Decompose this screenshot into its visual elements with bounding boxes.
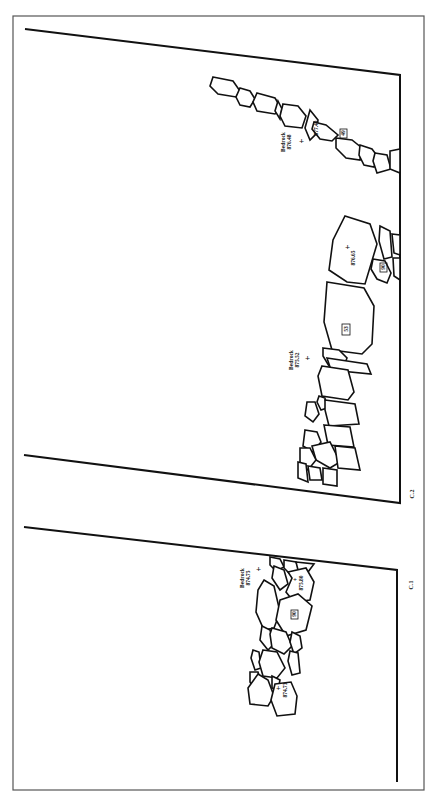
panel-c1: 90 + 875.80 + 874.73 Bedrock 874.75 + C.… [24,527,414,782]
stone-elevation-label: 875.80 [298,575,304,590]
bedrock-cross-icon: + [305,353,310,363]
c2-stones-middle [298,216,400,486]
panel-label-c1: C.1 [408,581,414,590]
bedrock-cross-icon: + [299,136,304,146]
bedrock-elevation: 875.52 [294,352,300,367]
stone-elevation-label: 877.49 [313,120,319,135]
stone-elevation-label: 874.73 [282,682,288,697]
stone-cross-icon: + [293,576,297,584]
c2-stones-upper [210,77,400,173]
c1-stones [248,557,314,716]
stone-id-label: 90 [380,264,386,270]
bedrock-marker-c2-upper: Bedrock 876.48 + [280,131,304,152]
figure-frame [13,16,424,790]
stone-cross-icon: + [276,684,281,693]
bedrock-marker-c2-lower: Bedrock 875.52 + [288,349,310,370]
panel-c2: Bedrock 876.48 + 877.49 49 [24,29,415,503]
bedrock-cross-icon: + [256,564,261,574]
archaeological-section-figure: Bedrock 876.48 + 877.49 49 [0,0,441,799]
stone-id-label: 53 [343,326,349,332]
stone-id-label: 49 [340,130,346,136]
stone-id-label: 90 [291,611,297,617]
stone-elevation-label: 876.65 [350,250,356,265]
c1-ground-profile [24,527,397,782]
panel-label-c2: C.2 [409,490,415,499]
bedrock-elevation: 876.48 [286,134,292,149]
bedrock-elevation: 874.75 [245,570,251,585]
bedrock-marker-c1: Bedrock 874.75 + [239,564,261,588]
